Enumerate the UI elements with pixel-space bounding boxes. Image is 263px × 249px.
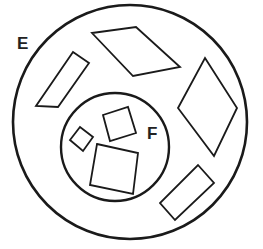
set-f-label: F [147,124,157,143]
rhombus-right-shape [178,58,237,156]
set-e-circle [13,5,247,239]
venn-diagram: E F [0,0,263,249]
parallelogram-left-shape [36,52,89,107]
square-small-shape [70,127,93,151]
set-e-label: E [17,34,28,53]
square-large-shape [90,144,138,194]
square-medium-shape [103,107,136,141]
rhombus-top-shape [92,27,180,76]
